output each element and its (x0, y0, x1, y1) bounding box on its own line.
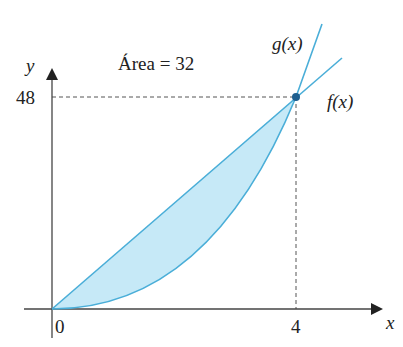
area-title: Área = 32 (118, 53, 194, 74)
intersection-point (292, 93, 300, 101)
x-tick-0: 0 (55, 316, 65, 337)
y-axis-arrow-icon (46, 68, 58, 80)
f-label: f(x) (327, 91, 353, 113)
g-label: g(x) (272, 33, 303, 55)
x-axis-arrow-icon (371, 303, 383, 315)
area-between-curves-diagram: Área = 32 y x 48 0 4 g(x) f(x) (0, 0, 403, 347)
x-tick-4: 4 (291, 316, 301, 337)
x-axis-label: x (385, 312, 395, 333)
y-tick-48: 48 (16, 87, 35, 108)
y-axis-label: y (24, 55, 35, 76)
